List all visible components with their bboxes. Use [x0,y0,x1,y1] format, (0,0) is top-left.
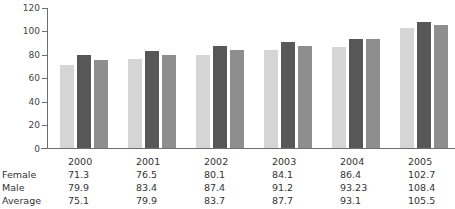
table-cell: 93.23 [340,181,386,194]
table-cell: 75.1 [68,194,114,207]
table-cell: 2002 [204,155,250,168]
bar-male-2001[interactable] [145,51,159,148]
table-row: Average 75.1 79.9 83.7 87.7 93.1 105.5 [0,194,455,207]
table-cell: 2000 [68,155,114,168]
table-cell: 2004 [340,155,386,168]
table-cell: 2005 [408,155,454,168]
y-tick-label: 0 [14,145,40,154]
table-cell: 83.4 [136,181,182,194]
table-cell: 84.1 [272,168,318,181]
table-cell: 79.9 [136,194,182,207]
bar-male-2003[interactable] [281,42,295,148]
bar-chart: 120 100 80 60 40 20 0 [0,0,455,156]
bar-group-2000 [60,8,111,148]
bar-female-2000[interactable] [60,65,74,148]
table-header-row: 2000 2001 2002 2003 2004 2005 [0,155,455,168]
bar-male-2005[interactable] [417,22,431,148]
bar-female-2001[interactable] [128,59,142,148]
table-cell: 87.7 [272,194,318,207]
chart-page: 120 100 80 60 40 20 0 2000 2001 2002 20 [0,0,455,209]
y-tick-label: 20 [14,121,40,130]
data-table: 2000 2001 2002 2003 2004 2005 Female 71.… [0,155,455,209]
bar-group-2004 [332,8,383,148]
table-row: Male 79.9 83.4 87.4 91.2 93.23 108.4 [0,181,455,194]
bar-male-2000[interactable] [77,55,91,148]
y-tick-label: 60 [14,74,40,83]
plot-area [48,8,455,148]
bar-female-2004[interactable] [332,47,346,148]
table-cell: 87.4 [204,181,250,194]
table-row-label: Female [2,168,54,181]
table-cell: 2003 [272,155,318,168]
bar-female-2003[interactable] [264,50,278,148]
y-tick-label: 120 [14,4,40,13]
bar-average-2004[interactable] [366,39,380,148]
bar-average-2001[interactable] [162,55,176,148]
bar-female-2005[interactable] [400,28,414,148]
table-cell: 86.4 [340,168,386,181]
table-cell: 80.1 [204,168,250,181]
y-tick-label: 100 [14,27,40,36]
table-cell: 108.4 [408,181,454,194]
table-cell: 83.7 [204,194,250,207]
table-row: Female 71.3 76.5 80.1 84.1 86.4 102.7 [0,168,455,181]
bar-group-2005 [400,8,451,148]
table-row-label: Male [2,181,54,194]
table-cell: 2001 [136,155,182,168]
bar-group-2002 [196,8,247,148]
table-cell: 79.9 [68,181,114,194]
bar-average-2002[interactable] [230,50,244,148]
y-tick-label: 80 [14,51,40,60]
bar-average-2003[interactable] [298,46,312,148]
table-cell: 76.5 [136,168,182,181]
table-cell: 102.7 [408,168,454,181]
bar-male-2004[interactable] [349,39,363,148]
table-cell: 105.5 [408,194,454,207]
bar-average-2005[interactable] [434,25,448,148]
bar-female-2002[interactable] [196,55,210,148]
x-axis-line [41,148,455,149]
table-cell: 93.1 [340,194,386,207]
bar-male-2002[interactable] [213,46,227,148]
table-row-label: Average [2,194,54,207]
y-tick-label: 40 [14,98,40,107]
bar-average-2000[interactable] [94,60,108,148]
y-axis-tick-labels: 120 100 80 60 40 20 0 [14,0,40,156]
table-cell: 71.3 [68,168,114,181]
bar-group-2001 [128,8,179,148]
table-cell: 91.2 [272,181,318,194]
bar-group-2003 [264,8,315,148]
